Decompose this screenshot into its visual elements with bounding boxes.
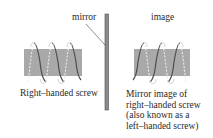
right-handed-screw-caption: Right–handed screw bbox=[20, 88, 98, 98]
right-handed-screw bbox=[24, 42, 82, 83]
mirror-label: mirror bbox=[72, 12, 96, 22]
caption-line: (also known as a bbox=[126, 110, 212, 121]
right-screw-body bbox=[134, 49, 190, 76]
caption-line: Mirror image of bbox=[126, 89, 212, 100]
left-handed-screw bbox=[133, 42, 190, 83]
caption-line: right–handed screw bbox=[126, 100, 212, 111]
mirror-pointer-line bbox=[86, 24, 105, 45]
mirror-plate bbox=[105, 14, 109, 110]
image-label: image bbox=[151, 12, 174, 22]
mirror-image-caption: Mirror image of right–handed screw (also… bbox=[126, 89, 212, 131]
caption-line: left–handed screw) bbox=[126, 121, 212, 132]
left-screw-body bbox=[24, 49, 82, 76]
